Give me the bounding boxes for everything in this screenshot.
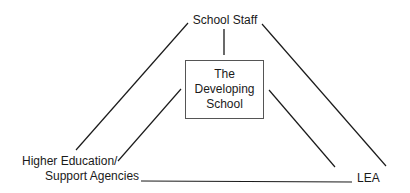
edge-school-to-higher-ed [118,89,181,161]
center-line-3: School [206,97,243,112]
node-lea: LEA [357,171,383,186]
node-school-staff: School Staff [192,13,258,28]
center-line-2: Developing [194,82,254,97]
center-node-developing-school: The Developing School [185,60,264,119]
node-higher-education: Higher Education/ Support Agencies [22,154,138,184]
edge-staff-to-lea [262,24,386,166]
node-higher-ed-line-2: Support Agencies [22,169,138,184]
edge-school-to-lea [269,90,335,167]
node-school-staff-label: School Staff [193,13,258,27]
developing-school-diagram: School Staff The Developing School Highe… [0,0,410,193]
edge-staff-to-higher-ed [76,23,188,150]
edge-higher-ed-to-lea [141,181,352,182]
node-lea-label: LEA [357,171,380,185]
node-higher-ed-line-1: Higher Education/ [22,154,138,169]
center-line-1: The [214,67,235,82]
